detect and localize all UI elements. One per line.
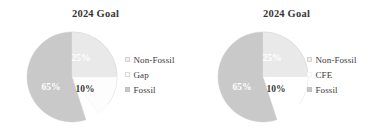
legend-label-fossil-right: Fossil [316, 85, 338, 95]
legend-label-cfe-right: CFE [316, 70, 333, 80]
legend-item-fossil-right[interactable]: Fossil [307, 82, 379, 97]
legend-label-non-fossil-left: Non-Fossil [134, 55, 175, 65]
legend-swatch-icon-non-fossil-right [307, 57, 312, 62]
legend-swatch-icon-non-fossil-left [125, 57, 130, 62]
pie-label-non-fossil-left: 25% [72, 53, 91, 63]
legend-right: Non-Fossil CFE Fossil [307, 52, 379, 97]
legend-swatch-icon-gap-left [125, 72, 130, 77]
pie-label-fossil-left: 65% [42, 82, 61, 92]
legend-swatch-icon-fossil-right [307, 87, 312, 92]
pie-label-fossil-right: 65% [233, 82, 252, 92]
legend-swatch-icon-fossil-left [125, 87, 130, 92]
legend-label-fossil-left: Fossil [134, 85, 156, 95]
pie-chart-left: 25% 10% 65% [27, 32, 117, 122]
page-title-right: 2024 Goal [191, 8, 382, 19]
pie-label-non-fossil-right: 25% [263, 53, 282, 63]
legend-item-gap-left[interactable]: Gap [125, 67, 197, 82]
pie-label-gap-left: 10% [76, 84, 95, 94]
legend-left: Non-Fossil Gap Fossil [125, 52, 197, 97]
pie-label-cfe-right: 10% [267, 84, 286, 94]
page-title-left: 2024 Goal [0, 8, 191, 19]
legend-item-cfe-right[interactable]: CFE [307, 67, 379, 82]
legend-label-gap-left: Gap [134, 70, 149, 80]
pie-chart-right: 25% 10% 65% [218, 32, 308, 122]
legend-item-non-fossil-left[interactable]: Non-Fossil [125, 52, 197, 67]
pie-svg-left: 25% 10% 65% [27, 32, 117, 122]
figure-two-pie-charts: 2024 Goal 25% 10% 65% Non-Fossil Ga [0, 0, 382, 135]
pie-panel-left: 2024 Goal 25% 10% 65% Non-Fossil Ga [0, 0, 191, 135]
pie-panel-right: 2024 Goal 25% 10% 65% Non-Fossil CFE [191, 0, 382, 135]
legend-item-fossil-left[interactable]: Fossil [125, 82, 197, 97]
pie-svg-right: 25% 10% 65% [218, 32, 308, 122]
legend-item-non-fossil-right[interactable]: Non-Fossil [307, 52, 379, 67]
legend-swatch-icon-cfe-right [307, 72, 312, 77]
legend-label-non-fossil-right: Non-Fossil [316, 55, 357, 65]
